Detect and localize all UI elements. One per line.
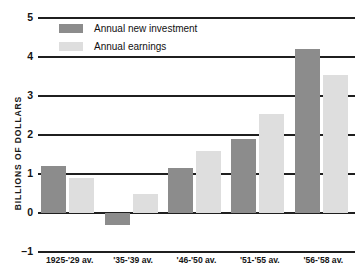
bar: [133, 194, 158, 214]
y-axis-title: BILLIONS OF DOLLARS: [13, 93, 23, 213]
bar: [259, 114, 284, 213]
legend-swatch-icon: [59, 42, 83, 51]
bar: [69, 178, 94, 213]
bar: [41, 166, 66, 213]
x-axis-label: 1925-'29 av.: [38, 255, 101, 265]
gridline--1: [38, 251, 355, 252]
y-tick-label: 1: [16, 168, 33, 179]
x-axis-label: '51-'55 av.: [228, 255, 291, 265]
x-axis-category-labels: 1925-'29 av.'35-'39 av.'46-'50 av.'51-'5…: [38, 255, 355, 273]
bar: [323, 75, 348, 213]
bar: [295, 49, 320, 213]
x-axis-label: '46-'50 av.: [165, 255, 228, 265]
x-axis-label: '35-'39 av.: [101, 255, 164, 265]
y-tick-label: 5: [16, 12, 33, 23]
y-tick-label: 3: [16, 90, 33, 101]
legend-item-label: Annual earnings: [94, 41, 166, 52]
gridline-5: [38, 17, 355, 18]
bar: [105, 213, 130, 225]
legend-swatch-icon: [59, 24, 83, 33]
bar-chart: BILLIONS OF DOLLARS 543210–1 Annual new …: [0, 0, 362, 277]
y-tick-label: –1: [16, 246, 33, 257]
y-tick-label: 2: [16, 129, 33, 140]
legend-item-annual-new-investment: Annual new investment: [59, 21, 197, 36]
chart-legend: Annual new investment Annual earnings: [59, 21, 197, 57]
y-tick-label: 4: [16, 51, 33, 62]
y-tick-label: 0: [16, 207, 33, 218]
legend-item-annual-earnings: Annual earnings: [59, 39, 197, 54]
x-axis-label: '56-'58 av.: [292, 255, 355, 265]
bar: [196, 151, 221, 213]
bar: [168, 168, 193, 213]
bar: [231, 139, 256, 213]
legend-item-label: Annual new investment: [94, 23, 197, 34]
